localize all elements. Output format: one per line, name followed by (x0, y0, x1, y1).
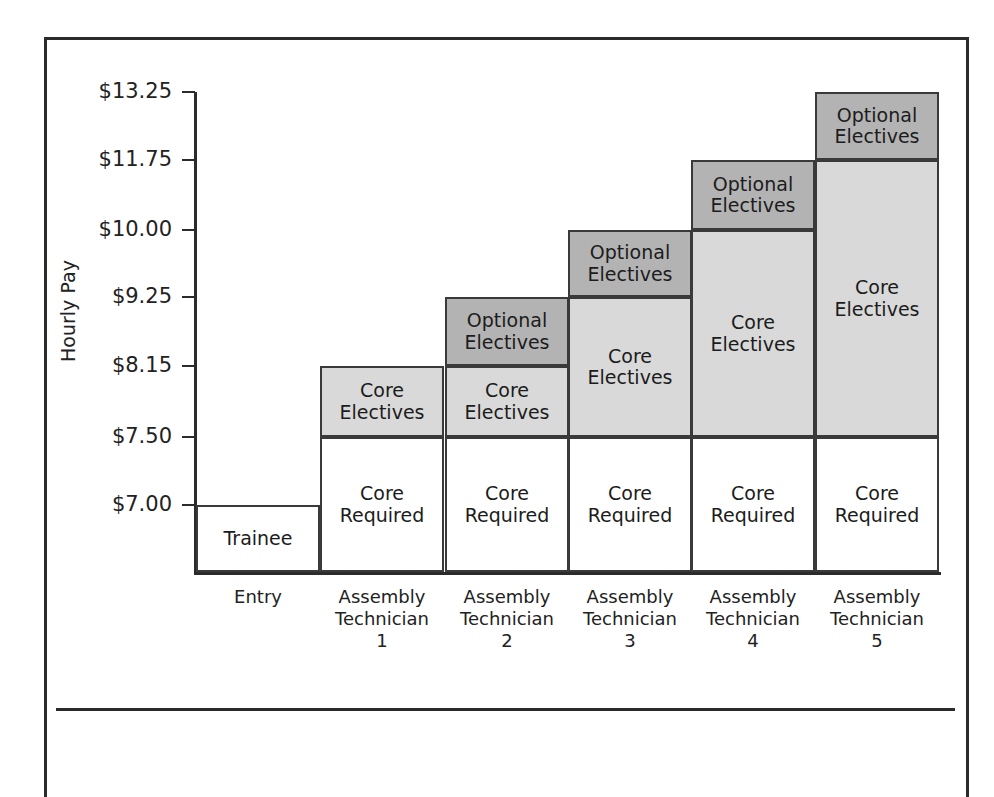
y-axis-title: Hourly Pay (57, 231, 79, 391)
x-axis-category-label-line: Assembly (815, 586, 939, 608)
y-axis-tick (182, 436, 195, 438)
x-axis-category-label-line: Technician (815, 608, 939, 630)
bar-segment-label-line: Electives (465, 332, 550, 353)
bar-segment-label-line: Core (485, 483, 529, 504)
y-axis-tick (182, 504, 195, 506)
y-axis-tick-label: $10.00 (99, 219, 172, 240)
y-axis-tick-label: $9.25 (112, 286, 172, 307)
bar-segment-core-electives: CoreElectives (320, 366, 444, 437)
y-axis-tick-label: $13.25 (99, 81, 172, 102)
x-axis-category-label-line: Assembly (320, 586, 444, 608)
x-axis-category-label-line: Technician (691, 608, 815, 630)
bar-segment-core-required: CoreRequired (568, 437, 692, 572)
bar-segment-label-line: Core (485, 380, 529, 401)
bar-segment-label-line: Electives (588, 367, 673, 388)
bar-segment-core-required: CoreRequired (691, 437, 815, 572)
bar-segment-label-line: Core (360, 380, 404, 401)
x-axis-category-label: AssemblyTechnician1 (320, 586, 444, 652)
x-axis-category-label-line: Technician (320, 608, 444, 630)
bar-segment-optional-electives: OptionalElectives (568, 230, 692, 297)
bar-segment-core-electives: CoreElectives (445, 366, 569, 437)
y-axis-tick (182, 229, 195, 231)
y-axis-tick-label: $11.75 (99, 149, 172, 170)
bar-segment-label-line: Optional (713, 174, 793, 195)
bar-segment-core-electives: CoreElectives (568, 297, 692, 437)
x-axis-category-label: AssemblyTechnician5 (815, 586, 939, 652)
bar-segment-label-line: Electives (588, 264, 673, 285)
bar-segment-label-line: Core (360, 483, 404, 504)
y-axis-tick-label: $8.15 (112, 355, 172, 376)
x-axis-category-label: AssemblyTechnician3 (568, 586, 692, 652)
bar-segment-optional-electives: OptionalElectives (815, 92, 939, 160)
bar-segment-label-line: Required (465, 505, 550, 526)
bar-segment-core-electives: CoreElectives (691, 230, 815, 437)
bar-segment-label-line: Required (835, 505, 920, 526)
bar-segment-label-line: Electives (835, 126, 920, 147)
y-axis-tick-label: $7.50 (112, 426, 172, 447)
bar-segment-label-line: Core (855, 483, 899, 504)
y-axis-tick (182, 91, 195, 93)
bar-segment-label-line: Core (855, 277, 899, 298)
y-axis-tick-label: $7.00 (112, 494, 172, 515)
bar-segment-label-line: Optional (837, 105, 917, 126)
footer-divider-rule (56, 708, 955, 711)
x-axis-category-label: AssemblyTechnician2 (445, 586, 569, 652)
bar-segment-core-required: CoreRequired (320, 437, 444, 572)
bar-segment-label-line: Required (588, 505, 673, 526)
bar-segment-label-line: Required (340, 505, 425, 526)
bar-segment-label-line: Core (731, 483, 775, 504)
x-axis-category-label-line: Assembly (568, 586, 692, 608)
bar-segment-label-line: Required (711, 505, 796, 526)
bar-segment-label-line: Optional (467, 310, 547, 331)
bar-segment-label-line: Core (731, 312, 775, 333)
bar-segment-core-required: CoreRequired (445, 437, 569, 572)
y-axis-tick (182, 296, 195, 298)
y-axis-line (194, 92, 197, 575)
bar-segment-label-line: Electives (711, 195, 796, 216)
bar-segment-label-line: Core (608, 346, 652, 367)
x-axis-category-label-line: Assembly (691, 586, 815, 608)
bar-segment-label-line: Core (608, 483, 652, 504)
x-axis-line (194, 572, 941, 575)
x-axis-category-label-line: Technician (445, 608, 569, 630)
y-axis-tick (182, 365, 195, 367)
x-axis-category-label-line: Assembly (445, 586, 569, 608)
bar-segment-trainee: Trainee (196, 505, 320, 572)
bar-segment-label-line: Electives (711, 334, 796, 355)
bar-segment-label-line: Trainee (224, 528, 293, 549)
bar-segment-label-line: Optional (590, 242, 670, 263)
bar-segment-core-electives: CoreElectives (815, 160, 939, 437)
x-axis-category-label-line: 2 (445, 630, 569, 652)
bar-segment-label-line: Electives (835, 299, 920, 320)
x-axis-category-label-line: 1 (320, 630, 444, 652)
bar-segment-optional-electives: OptionalElectives (691, 160, 815, 230)
x-axis-category-label-line: Entry (196, 586, 320, 608)
bar-segment-label-line: Electives (465, 402, 550, 423)
x-axis-category-label: Entry (196, 586, 320, 608)
x-axis-category-label: AssemblyTechnician4 (691, 586, 815, 652)
bar-segment-label-line: Electives (340, 402, 425, 423)
y-axis-tick (182, 159, 195, 161)
x-axis-category-label-line: 4 (691, 630, 815, 652)
bar-segment-optional-electives: OptionalElectives (445, 297, 569, 366)
x-axis-category-label-line: 5 (815, 630, 939, 652)
x-axis-category-label-line: Technician (568, 608, 692, 630)
bar-segment-core-required: CoreRequired (815, 437, 939, 572)
x-axis-category-label-line: 3 (568, 630, 692, 652)
